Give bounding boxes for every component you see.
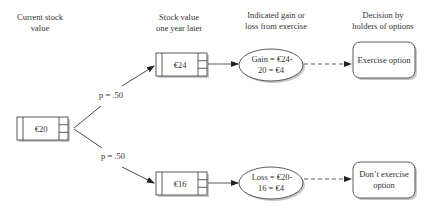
- probability-down-label: p = .50: [101, 151, 125, 161]
- node-up-label: €24: [174, 60, 188, 70]
- node-down-label: €16: [174, 179, 187, 189]
- no-exercise-line-2: option: [373, 180, 395, 190]
- branch-up: p = .50: [74, 66, 154, 128]
- node-start-20: €20: [17, 117, 70, 142]
- node-gain: Gain = €24- 20 = €4: [239, 49, 305, 83]
- node-no-exercise-option: Don’t exercise option: [353, 162, 417, 200]
- decision-tree-diagram: €20 p = .50 p = .50 €24 €16 Gain =: [0, 0, 433, 208]
- node-up-24: €24: [156, 53, 209, 78]
- exercise-label: Exercise option: [357, 55, 411, 65]
- branch-down: p = .50: [74, 129, 154, 183]
- node-exercise-option: Exercise option: [353, 42, 417, 80]
- node-loss: Loss = €20- 16 = €4: [239, 167, 305, 201]
- no-exercise-line-1: Don’t exercise: [359, 169, 409, 179]
- gain-line-1: Gain = €24-: [251, 54, 292, 64]
- node-start-label: €20: [35, 124, 48, 134]
- probability-up-label: p = .50: [99, 90, 123, 100]
- gain-line-2: 20 = €4: [258, 65, 285, 75]
- loss-line-1: Loss = €20-: [252, 172, 293, 182]
- node-down-16: €16: [156, 172, 209, 197]
- loss-line-2: 16 = €4: [258, 183, 285, 193]
